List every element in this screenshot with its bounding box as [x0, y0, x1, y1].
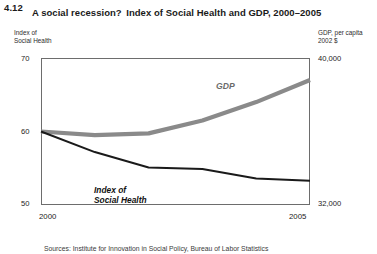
- left-axis-tick-60: 60: [21, 127, 29, 136]
- figure-number: 4.12: [4, 2, 23, 14]
- x-axis-tick-2005: 2005: [289, 212, 306, 221]
- plot-area: [41, 58, 310, 205]
- figure-title-lines: A social recession? Index of Social Heal…: [32, 2, 321, 20]
- right-axis-caption-line-1: GDP, per capita: [318, 29, 363, 36]
- x-axis-tick-2000: 2000: [39, 212, 56, 221]
- figure-title-line-2: Index of Social Health and GDP, 2000–200…: [126, 7, 321, 18]
- ish-series-label-line-2: Social Health: [94, 195, 147, 205]
- ish-series-label-line-1: Index of: [94, 185, 126, 195]
- right-axis-tick-32000: 32,000: [318, 199, 341, 208]
- index-of-social-health-series-line: [41, 132, 310, 181]
- left-axis-caption-line-2: Social Health: [14, 37, 52, 44]
- gdp-series-label: GDP: [216, 81, 235, 91]
- figure-title-block: 4.12 A social recession? Index of Social…: [4, 2, 321, 20]
- gdp-series-line: [41, 80, 310, 135]
- left-axis-tick-70: 70: [21, 54, 29, 63]
- left-axis-caption-line-1: Index of: [14, 29, 37, 36]
- left-axis-tick-50: 50: [21, 199, 29, 208]
- right-axis-caption: GDP, per capita 2002 $: [318, 29, 363, 44]
- figure-container: 4.12 A social recession? Index of Social…: [0, 0, 377, 254]
- source-note: Sources: Institute for Innovation in Soc…: [44, 245, 268, 252]
- right-axis-tick-40000: 40,000: [318, 54, 341, 63]
- right-axis-caption-line-2: 2002 $: [318, 37, 338, 44]
- left-axis-caption: Index of Social Health: [14, 29, 52, 44]
- index-of-social-health-series-label: Index of Social Health: [94, 186, 147, 205]
- figure-title-line-1: A social recession?: [32, 7, 122, 18]
